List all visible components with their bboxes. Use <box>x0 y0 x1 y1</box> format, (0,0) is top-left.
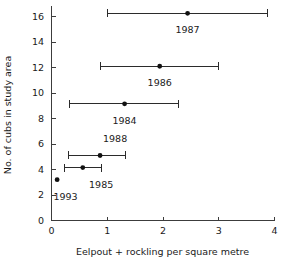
data-point-label: 1993 <box>53 191 77 202</box>
data-point-marker <box>98 153 103 158</box>
chart-container: 0246810121416 01234 19871986198419881985… <box>0 0 292 263</box>
y-tick-label: 14 <box>32 36 44 47</box>
y-tick-label: 12 <box>32 62 44 73</box>
x-tick-label: 1 <box>104 225 110 236</box>
data-point-marker <box>185 11 190 16</box>
axes-group <box>52 6 275 221</box>
data-point-label: 1984 <box>112 115 136 126</box>
y-tick-label: 8 <box>38 113 44 124</box>
data-point-marker <box>80 165 85 170</box>
x-tick-label: 0 <box>48 225 54 236</box>
data-point-label: 1987 <box>175 24 199 35</box>
scatter-plot-with-error-bars: 0246810121416 01234 19871986198419881985… <box>0 0 292 263</box>
data-point-group: 1986 <box>101 62 219 88</box>
data-point-label: 1985 <box>89 179 113 190</box>
data-point-group: 1988 <box>68 133 127 159</box>
y-tick-label: 0 <box>38 215 44 226</box>
y-axis-title: No. of cubs in study area <box>2 56 13 174</box>
y-tick-label: 10 <box>32 87 44 98</box>
data-point-group: 1984 <box>69 100 178 126</box>
x-tick-label: 3 <box>216 225 222 236</box>
data-point-marker <box>122 101 127 106</box>
data-series-group: 198719861984198819851993 <box>53 9 267 202</box>
y-tick-label: 4 <box>38 164 44 175</box>
data-point-label: 1986 <box>148 77 172 88</box>
data-point-label: 1988 <box>103 133 127 144</box>
y-tick-label: 16 <box>32 11 44 22</box>
data-point-group: 1985 <box>65 164 113 190</box>
data-point-group: 1987 <box>107 9 268 35</box>
x-axis-title: Eelpout + rockling per square metre <box>76 246 249 257</box>
y-tick-label: 6 <box>38 138 44 149</box>
x-tick-label: 2 <box>160 225 166 236</box>
data-point-marker <box>55 177 60 182</box>
x-tick-label: 4 <box>271 225 277 236</box>
y-tick-label: 2 <box>38 189 44 200</box>
data-point-marker <box>157 64 162 69</box>
x-axis-ticks: 01234 <box>48 217 277 237</box>
data-point-group: 1993 <box>53 177 77 202</box>
